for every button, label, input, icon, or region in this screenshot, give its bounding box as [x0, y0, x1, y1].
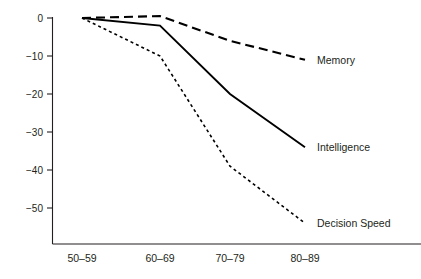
y-axis-ticks	[47, 18, 53, 208]
y-tick-label: 0	[37, 13, 43, 24]
series-inline-labels: MemoryIntelligenceDecision Speed	[317, 54, 391, 229]
y-axis-tick-labels: 0−10−20−30−40−50	[26, 13, 43, 214]
x-category-label: 80–89	[290, 252, 319, 264]
series-label-intelligence: Intelligence	[317, 141, 370, 153]
y-tick-label: −40	[26, 165, 43, 176]
series-label-decision-speed: Decision Speed	[317, 217, 391, 229]
x-category-label: 60–69	[145, 252, 174, 264]
y-tick-label: −10	[26, 51, 43, 62]
data-series-group	[82, 16, 305, 223]
series-label-memory: Memory	[317, 54, 356, 66]
y-tick-label: −50	[26, 203, 43, 214]
series-line-decision-speed	[82, 18, 305, 223]
x-category-label: 50–59	[67, 252, 96, 264]
line-chart: 0−10−20−30−40−50 50–5960–6970–7980–89 Me…	[0, 0, 421, 279]
x-axis-category-labels: 50–5960–6970–7980–89	[67, 252, 319, 264]
x-category-label: 70–79	[215, 252, 244, 264]
chart-container: 0−10−20−30−40−50 50–5960–6970–7980–89 Me…	[0, 0, 421, 279]
series-line-intelligence	[82, 18, 305, 147]
series-line-memory	[82, 16, 305, 60]
y-tick-label: −20	[26, 89, 43, 100]
y-tick-label: −30	[26, 127, 43, 138]
